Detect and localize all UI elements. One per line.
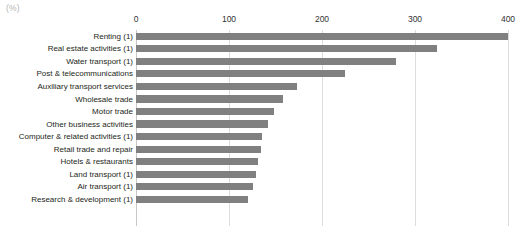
bar bbox=[136, 171, 256, 178]
bar bbox=[136, 83, 297, 90]
category-label: Retail trade and repair bbox=[0, 145, 133, 154]
bar bbox=[136, 158, 258, 165]
bar-row: Motor trade bbox=[0, 105, 519, 118]
x-axis-tick-labels: 0100200300400 bbox=[136, 14, 508, 28]
bar bbox=[136, 58, 396, 65]
bar bbox=[136, 95, 283, 102]
bar-row: Real estate activities (1) bbox=[0, 43, 519, 56]
bar-track bbox=[136, 68, 508, 81]
bar-row: Renting (1) bbox=[0, 30, 519, 43]
category-label: Post & telecommunications bbox=[0, 69, 133, 78]
bar-rows: Renting (1)Real estate activities (1)Wat… bbox=[0, 30, 519, 206]
axis-unit-label: (%) bbox=[6, 3, 20, 13]
category-label: Computer & related activities (1) bbox=[0, 132, 133, 141]
bar-track bbox=[136, 43, 508, 56]
bar-row: Retail trade and repair bbox=[0, 143, 519, 156]
bar-track bbox=[136, 143, 508, 156]
category-label: Water transport (1) bbox=[0, 57, 133, 66]
category-label: Hotels & restaurants bbox=[0, 157, 133, 166]
bar-track bbox=[136, 155, 508, 168]
bar-track bbox=[136, 193, 508, 206]
bar bbox=[136, 183, 253, 190]
bar-track bbox=[136, 30, 508, 43]
category-label: Other business activities bbox=[0, 120, 133, 129]
bar bbox=[136, 108, 274, 115]
category-label: Land transport (1) bbox=[0, 170, 133, 179]
x-tick-label-400: 400 bbox=[501, 14, 515, 24]
bar-row: Research & development (1) bbox=[0, 193, 519, 206]
category-label: Wholesale trade bbox=[0, 95, 133, 104]
category-label: Air transport (1) bbox=[0, 182, 133, 191]
bar-row: Water transport (1) bbox=[0, 55, 519, 68]
bar-row: Post & telecommunications bbox=[0, 68, 519, 81]
bar bbox=[136, 196, 248, 203]
bar-track bbox=[136, 130, 508, 143]
category-label: Auxiliary transport services bbox=[0, 82, 133, 91]
bar-track bbox=[136, 80, 508, 93]
bar bbox=[136, 146, 261, 153]
bar-row: Other business activities bbox=[0, 118, 519, 131]
bar-row: Wholesale trade bbox=[0, 93, 519, 106]
horizontal-bar-chart: (%) 0100200300400 Renting (1)Real estate… bbox=[0, 0, 519, 234]
bar-track bbox=[136, 105, 508, 118]
bar bbox=[136, 45, 437, 52]
x-tick-label-300: 300 bbox=[408, 14, 422, 24]
bar-track bbox=[136, 118, 508, 131]
bar bbox=[136, 133, 262, 140]
category-label: Research & development (1) bbox=[0, 195, 133, 204]
x-tick-label-0: 0 bbox=[134, 14, 139, 24]
bar-track bbox=[136, 181, 508, 194]
x-tick-label-100: 100 bbox=[222, 14, 236, 24]
bar-row: Hotels & restaurants bbox=[0, 155, 519, 168]
bar bbox=[136, 70, 345, 77]
bar-row: Auxiliary transport services bbox=[0, 80, 519, 93]
category-label: Motor trade bbox=[0, 107, 133, 116]
bar-row: Land transport (1) bbox=[0, 168, 519, 181]
bar-row: Air transport (1) bbox=[0, 181, 519, 194]
category-label: Real estate activities (1) bbox=[0, 44, 133, 53]
bar-row: Computer & related activities (1) bbox=[0, 130, 519, 143]
bar-track bbox=[136, 55, 508, 68]
bar bbox=[136, 120, 268, 127]
bar-track bbox=[136, 168, 508, 181]
bar-track bbox=[136, 93, 508, 106]
x-tick-label-200: 200 bbox=[315, 14, 329, 24]
category-label: Renting (1) bbox=[0, 32, 133, 41]
bar bbox=[136, 33, 508, 40]
